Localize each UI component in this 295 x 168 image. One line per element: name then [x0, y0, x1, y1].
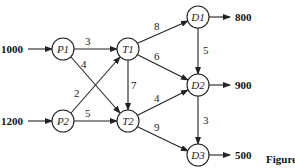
node-label-d2: D2 — [190, 79, 205, 91]
weight-p2-t2: 5 — [85, 107, 91, 119]
supply-p1: 1000 — [1, 43, 24, 55]
edge-t2-d3 — [138, 127, 188, 151]
weight-t1-d1: 8 — [154, 20, 160, 32]
weight-d2-d3: 3 — [203, 114, 209, 126]
node-label-d3: D3 — [190, 149, 205, 161]
demand-d3: 500 — [235, 149, 252, 161]
edge-t1-d2 — [138, 55, 188, 80]
node-label-t2: T2 — [122, 115, 134, 127]
weight-p1-t1: 3 — [85, 35, 91, 47]
edge-t2-d2 — [138, 90, 188, 115]
weight-d1-d2: 5 — [203, 44, 209, 56]
network-diagram: P1 P2 T1 T2 D1 D2 D3 1000 1200 800 900 5… — [0, 0, 295, 168]
weight-p2-t1: 2 — [74, 87, 80, 99]
weight-t1-t2: 7 — [131, 79, 137, 91]
demand-d2: 900 — [235, 79, 252, 91]
node-label-d1: D1 — [190, 11, 204, 23]
figure-caption: Figure — [266, 153, 295, 165]
demand-d1: 800 — [235, 11, 252, 23]
weight-t2-d2: 4 — [154, 92, 160, 104]
node-label-t1: T1 — [122, 43, 134, 55]
weight-p1-t2: 4 — [81, 58, 87, 70]
weight-t2-d3: 9 — [154, 121, 160, 133]
edge-t1-d1 — [138, 21, 188, 43]
node-label-p1: P1 — [56, 43, 69, 55]
node-label-p2: P2 — [56, 115, 70, 127]
supply-p2: 1200 — [1, 115, 24, 127]
weight-t1-d2: 6 — [154, 50, 160, 62]
